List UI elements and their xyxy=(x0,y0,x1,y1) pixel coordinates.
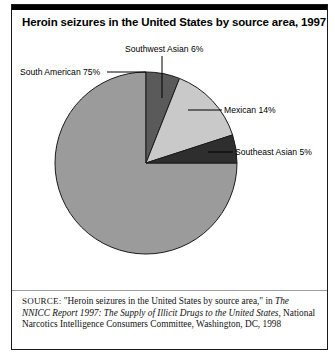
source-prefix: SOURCE: xyxy=(22,296,61,306)
pie-label-mexican: Mexican 14% xyxy=(224,105,276,115)
source-connector: in xyxy=(265,296,272,306)
figure-container: Heroin seizures in the United States by … xyxy=(0,0,335,358)
pie-chart-area: Southwest Asian 6% South American 75% Me… xyxy=(12,34,327,290)
source-quoted-title: "Heroin seizures in the United States by… xyxy=(64,296,263,306)
pie-label-south-american: South American 75% xyxy=(20,67,100,77)
figure-title: Heroin seizures in the United States by … xyxy=(22,16,322,29)
source-divider-rule xyxy=(12,290,327,291)
pie-label-southwest-asian: Southwest Asian 6% xyxy=(125,44,203,54)
pie-label-southeast-asian: Southeast Asian 5% xyxy=(235,147,312,157)
source-note: SOURCE: "Heroin seizures in the United S… xyxy=(22,296,318,331)
title-divider-rule xyxy=(12,5,327,10)
